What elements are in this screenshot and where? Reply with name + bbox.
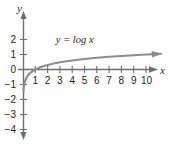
x-tick-label: 10 [141, 75, 153, 86]
curve-arrow-right-icon [152, 51, 163, 58]
x-axis-label: x [159, 64, 165, 76]
x-tick-label: 1 [33, 75, 39, 86]
plot-area: y x 1 2 3 4 5 6 7 [0, 0, 169, 146]
x-tick-label: 8 [119, 75, 125, 86]
y-axis-group: y [16, 2, 27, 140]
y-tick-label: 2 [10, 34, 16, 45]
x-tick-label: 7 [106, 75, 112, 86]
x-tick-labels: 1 2 3 4 5 6 7 8 9 10 [33, 75, 153, 86]
x-tick-label: 6 [94, 75, 100, 86]
y-tick-label: −2 [5, 94, 17, 105]
y-axis-label: y [16, 2, 22, 14]
y-tick-label: 0 [10, 64, 16, 75]
y-tick-label: −4 [5, 124, 17, 135]
x-tick-label: 5 [82, 75, 88, 86]
y-tick-label: −1 [5, 79, 17, 90]
y-tick-label: −3 [5, 109, 17, 120]
arrow-down-icon [20, 132, 26, 140]
x-tick-label: 4 [69, 75, 75, 86]
y-tick-labels: 2 1 0 −1 −2 −3 −4 [5, 34, 17, 135]
x-tick-label: 2 [45, 75, 51, 86]
curve-equation-label: y = log x [55, 34, 94, 45]
x-tick-label: 3 [57, 75, 63, 86]
x-tick-label: 9 [131, 75, 137, 86]
x-axis-group: x [18, 64, 165, 76]
y-tick-label: 1 [10, 49, 16, 60]
logarithm-graph-figure: y x 1 2 3 4 5 6 7 [0, 0, 169, 146]
arrow-right-icon [149, 66, 158, 73]
